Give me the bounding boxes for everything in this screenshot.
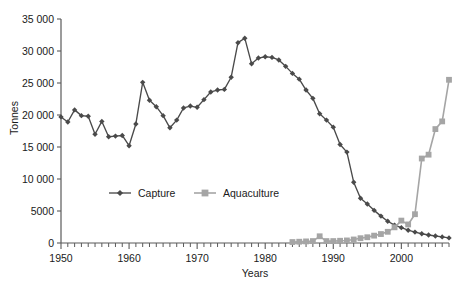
data-point-capture: [106, 134, 111, 139]
data-point-aquaculture: [405, 222, 411, 228]
y-axis-tick-labels: 0500010 00015 00020 00025 00030 00035 00…: [22, 13, 54, 249]
x-axis-tick-labels: 195019601970198019902000: [49, 252, 413, 264]
data-point-capture: [113, 133, 118, 138]
legend-label-capture: Capture: [138, 187, 176, 199]
data-point-aquaculture: [371, 233, 377, 239]
data-point-capture: [86, 114, 91, 119]
y-tick-label: 25 000: [22, 77, 54, 89]
data-point-capture: [215, 87, 220, 92]
x-tick-label: 1990: [322, 252, 346, 264]
data-point-aquaculture: [419, 156, 425, 162]
y-tick-label: 15 000: [22, 141, 54, 153]
data-point-aquaculture: [432, 126, 438, 132]
data-point-capture: [433, 233, 438, 238]
data-point-aquaculture: [398, 218, 404, 224]
data-point-aquaculture: [290, 239, 296, 245]
data-point-capture: [222, 87, 227, 92]
data-point-capture: [426, 232, 431, 237]
line-chart: 0500010 00015 00020 00025 00030 00035 00…: [0, 0, 456, 291]
data-series-group: [58, 36, 452, 245]
data-point-aquaculture: [296, 239, 302, 245]
y-tick-label: 35 000: [22, 13, 54, 25]
data-point-capture: [399, 225, 404, 230]
data-point-aquaculture: [351, 237, 357, 243]
data-point-aquaculture: [317, 233, 323, 239]
data-point-capture: [412, 229, 417, 234]
data-point-capture: [99, 119, 104, 124]
data-point-aquaculture: [378, 231, 384, 237]
data-point-capture: [269, 55, 274, 60]
data-point-capture: [263, 54, 268, 59]
data-point-capture: [351, 180, 356, 185]
data-point-aquaculture: [412, 211, 418, 217]
data-point-capture: [188, 103, 193, 108]
data-point-capture: [140, 80, 145, 85]
data-point-capture: [133, 121, 138, 126]
data-point-aquaculture: [364, 234, 370, 240]
series-line-capture: [61, 38, 449, 238]
data-point-capture: [228, 75, 233, 80]
data-point-aquaculture: [385, 229, 391, 235]
x-tick-label: 1950: [49, 252, 73, 264]
y-tick-label: 20 000: [22, 109, 54, 121]
data-point-aquaculture: [358, 235, 364, 241]
data-point-aquaculture: [446, 77, 452, 83]
data-point-aquaculture: [310, 238, 316, 244]
data-point-aquaculture: [303, 239, 309, 245]
data-point-aquaculture: [330, 238, 336, 244]
chart-legend: CaptureAquaculture: [109, 187, 279, 199]
legend-marker-aquaculture: [202, 190, 209, 197]
data-point-aquaculture: [344, 238, 350, 244]
y-tick-label: 30 000: [22, 45, 54, 57]
data-point-aquaculture: [439, 119, 445, 125]
data-point-aquaculture: [337, 238, 343, 244]
legend-marker-capture: [117, 190, 123, 196]
data-point-aquaculture: [324, 238, 330, 244]
data-point-capture: [439, 234, 444, 239]
x-tick-label: 1980: [254, 252, 278, 264]
x-tick-label: 1960: [117, 252, 141, 264]
y-tick-label: 0: [48, 237, 54, 249]
x-tick-label: 2000: [390, 252, 414, 264]
figure-caption: [6, 285, 450, 291]
data-point-capture: [181, 105, 186, 110]
y-tick-label: 10 000: [22, 173, 54, 185]
data-point-aquaculture: [426, 152, 432, 158]
y-axis-title: Tonnes: [8, 101, 20, 135]
legend-label-aquaculture: Aquaculture: [223, 187, 279, 199]
data-point-capture: [419, 231, 424, 236]
x-axis-title: Years: [242, 267, 268, 279]
data-point-capture: [405, 228, 410, 233]
data-point-capture: [92, 132, 97, 137]
y-tick-label: 5000: [31, 205, 55, 217]
data-point-aquaculture: [392, 224, 398, 230]
x-tick-label: 1970: [185, 252, 209, 264]
data-point-capture: [446, 235, 451, 240]
figure-container: 0500010 00015 00020 00025 00030 00035 00…: [0, 0, 456, 291]
